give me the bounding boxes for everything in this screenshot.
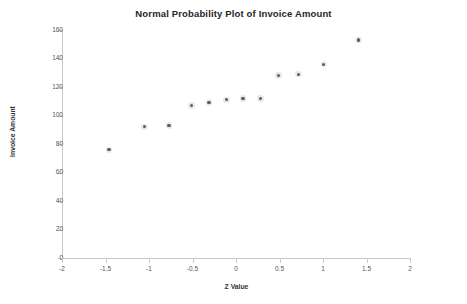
x-tick-mark	[410, 258, 411, 263]
y-tick-label: 120	[41, 84, 63, 91]
y-tick-label: 0	[41, 255, 63, 262]
x-axis-title: Z Value	[62, 283, 411, 290]
y-tick-label-wrap: 60	[0, 173, 63, 174]
data-point	[259, 97, 262, 100]
x-tick-mark	[62, 258, 63, 263]
x-tick-label: -0.5	[178, 266, 208, 273]
x-tick-label: -2	[47, 266, 77, 273]
y-tick-label-wrap: 0	[0, 258, 63, 259]
x-tick-label: -1	[134, 266, 164, 273]
y-tick-label-wrap: 140	[0, 59, 63, 60]
y-axis-title: Invoice Amount	[9, 92, 16, 172]
data-point	[167, 124, 170, 127]
data-point	[225, 98, 228, 101]
y-tick-label-wrap: 120	[0, 87, 63, 88]
normal-probability-plot: Normal Probability Plot of Invoice Amoun…	[0, 0, 467, 304]
x-tick-label: 0	[221, 266, 251, 273]
y-tick-label-wrap: 20	[0, 230, 63, 231]
data-point	[190, 104, 193, 107]
x-tick-mark	[323, 258, 324, 263]
x-tick-mark	[367, 258, 368, 263]
data-point	[357, 38, 360, 41]
data-point	[143, 125, 146, 128]
data-point	[207, 101, 210, 104]
x-tick-mark	[149, 258, 150, 263]
y-tick-label-wrap: 40	[0, 201, 63, 202]
y-tick-label: 60	[41, 169, 63, 176]
data-point	[297, 73, 300, 76]
x-tick-label: 0.5	[265, 266, 295, 273]
data-point	[241, 97, 244, 100]
x-tick-mark	[236, 258, 237, 263]
x-tick-label: 1.5	[352, 266, 382, 273]
data-point	[277, 74, 280, 77]
y-tick-label: 140	[41, 55, 63, 62]
chart-title: Normal Probability Plot of Invoice Amoun…	[0, 8, 467, 19]
x-tick-label: 1	[308, 266, 338, 273]
data-point	[322, 63, 325, 66]
x-tick-label: 2	[395, 266, 425, 273]
y-tick-label: 100	[41, 112, 63, 119]
y-tick-label: 40	[41, 198, 63, 205]
y-tick-label-wrap: 160	[0, 30, 63, 31]
plot-area	[62, 30, 410, 258]
y-tick-label: 80	[41, 141, 63, 148]
x-tick-mark	[280, 258, 281, 263]
x-tick-label: -1.5	[91, 266, 121, 273]
data-point	[107, 148, 110, 151]
x-tick-mark	[193, 258, 194, 263]
x-tick-mark	[106, 258, 107, 263]
y-tick-label: 160	[41, 27, 63, 34]
y-tick-label: 20	[41, 226, 63, 233]
